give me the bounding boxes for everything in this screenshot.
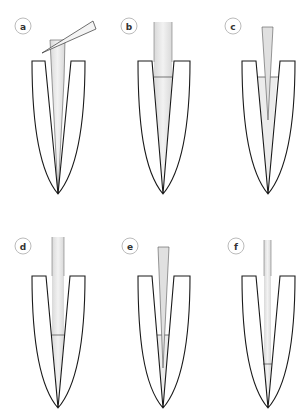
panel-f: f [228,238,295,408]
panel-label: e [127,242,133,252]
panel-d: d [15,237,85,408]
panel-label: c [230,22,235,32]
panel-label: d [20,242,26,252]
panel-b: b [121,18,190,194]
panel-c: c [225,18,295,194]
panel-label: b [126,22,133,32]
panel-a: a [15,18,96,194]
panel-label: a [20,22,26,32]
instrument [52,237,64,408]
instrument [154,22,172,194]
root-canal-diagram: a b c d e [0,0,306,419]
instrument [50,40,65,194]
panel-e: e [122,238,190,408]
tapered-cone [42,21,96,53]
panel-label: f [234,242,238,252]
